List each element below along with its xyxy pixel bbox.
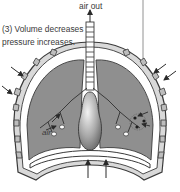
volume-caption-line1: (3) Volume decreases (2, 24, 83, 34)
air-out-label: air out (79, 1, 102, 11)
volume-caption-line2: pressure increases. (2, 37, 75, 47)
air-label: air (42, 128, 51, 138)
trachea (86, 10, 94, 90)
